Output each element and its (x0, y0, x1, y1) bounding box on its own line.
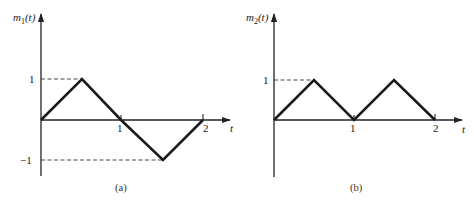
diagram-canvas: m1(t) 1 −1 1 2 t (a) m2(t) 1 1 2 t (b) (0, 0, 474, 205)
panel-b: m2(t) 1 1 2 t (b) (246, 11, 466, 194)
ylabel-a: m1(t) (13, 11, 36, 26)
xtick-label-1-a: 1 (117, 122, 123, 134)
xtick-label-1-b: 1 (350, 122, 356, 134)
ytick-label-1-a: 1 (29, 73, 35, 85)
xtick-label-2-a: 2 (203, 122, 209, 134)
xlabel-a: t (230, 122, 234, 134)
ytick-label-1-b: 1 (263, 74, 269, 86)
ylabel-b: m2(t) (246, 11, 269, 26)
caption-a: (a) (115, 182, 127, 194)
xtick-label-2-b: 2 (433, 122, 439, 134)
ytick-label-neg1-a: −1 (20, 154, 32, 166)
xlabel-b: t (462, 123, 466, 135)
panel-a: m1(t) 1 −1 1 2 t (a) (13, 11, 234, 194)
caption-b: (b) (350, 182, 363, 194)
signal-m2 (274, 80, 435, 120)
